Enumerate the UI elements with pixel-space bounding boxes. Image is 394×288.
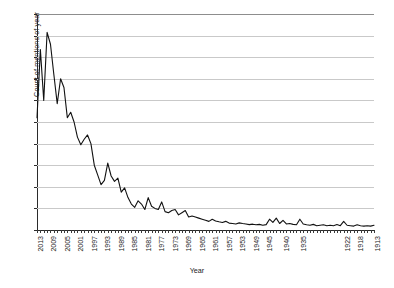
x-axis-tick-mark <box>50 230 51 233</box>
x-axis-tick-mark <box>195 230 196 233</box>
chart-container: Count of mentions of year Year 010020030… <box>0 0 394 288</box>
x-axis-tick-mark <box>71 230 72 233</box>
x-axis-tick-mark <box>94 230 95 233</box>
x-axis-tick-mark <box>131 230 132 233</box>
x-axis-tick-mark <box>145 230 146 233</box>
x-axis-tick-label: 1977 <box>158 236 165 252</box>
x-axis-tick-mark <box>303 230 304 233</box>
x-axis-tick-mark <box>259 230 260 233</box>
x-axis-tick-mark <box>88 230 89 233</box>
x-axis-tick-label: 2009 <box>50 236 57 252</box>
x-axis-tick-mark <box>179 230 180 233</box>
x-axis-tick-mark <box>246 230 247 233</box>
x-axis-tick-label: 1981 <box>144 236 151 252</box>
x-axis-tick-mark <box>172 230 173 233</box>
x-axis-tick-mark <box>115 230 116 233</box>
x-axis-tick-mark <box>47 230 48 233</box>
x-axis-tick-mark <box>249 230 250 233</box>
x-axis-tick-mark <box>175 230 176 233</box>
x-axis-tick-mark <box>98 230 99 233</box>
x-axis-tick-mark <box>125 230 126 233</box>
x-axis-tick-mark <box>307 230 308 233</box>
x-axis-tick-mark <box>111 230 112 233</box>
x-axis-tick-mark <box>367 230 368 233</box>
x-axis-tick-mark <box>296 230 297 233</box>
x-axis-tick-mark <box>61 230 62 233</box>
x-axis-tick-mark <box>135 230 136 233</box>
x-axis-tick-label: 1918 <box>357 236 364 252</box>
x-axis-tick-mark <box>239 230 240 233</box>
x-axis-tick-mark <box>350 230 351 233</box>
x-axis-tick-mark <box>313 230 314 233</box>
x-axis-tick-mark <box>371 230 372 233</box>
x-axis-tick-label: 2001 <box>77 236 84 252</box>
x-axis-tick-mark <box>206 230 207 233</box>
x-axis-tick-mark <box>364 230 365 233</box>
x-axis-tick-label: 1935 <box>299 236 306 252</box>
x-axis-tick-mark <box>44 230 45 233</box>
x-axis-tick-mark <box>256 230 257 233</box>
x-axis-tick-mark <box>37 230 38 233</box>
x-axis-tick-label: 1985 <box>131 236 138 252</box>
x-axis-tick-mark <box>243 230 244 233</box>
x-axis-tick-mark <box>67 230 68 233</box>
x-axis-tick-mark <box>354 230 355 233</box>
x-axis-tick-mark <box>226 230 227 233</box>
x-axis-tick-mark <box>192 230 193 233</box>
x-axis-tick-mark <box>232 230 233 233</box>
x-axis-tick-mark <box>266 230 267 233</box>
x-axis-tick-mark <box>104 230 105 233</box>
x-axis-tick-mark <box>310 230 311 233</box>
x-axis-tick-mark <box>273 230 274 233</box>
x-axis-tick-mark <box>263 230 264 233</box>
x-axis-tick-mark <box>189 230 190 233</box>
x-axis-tick-mark <box>280 230 281 233</box>
x-axis-tick-mark <box>323 230 324 233</box>
x-axis-tick-mark <box>337 230 338 233</box>
x-axis-tick-mark <box>152 230 153 233</box>
x-axis-tick-label: 1961 <box>212 236 219 252</box>
x-axis-tick-mark <box>64 230 65 233</box>
x-axis-tick-mark <box>357 230 358 233</box>
x-axis-tick-mark <box>118 230 119 233</box>
x-axis-tick-mark <box>165 230 166 233</box>
x-axis-tick-mark <box>340 230 341 233</box>
x-axis-tick-label: 1973 <box>171 236 178 252</box>
x-axis-title: Year <box>0 266 394 275</box>
x-axis-tick-mark <box>327 230 328 233</box>
x-axis-tick-mark <box>91 230 92 233</box>
x-axis-tick-label: 1969 <box>185 236 192 252</box>
x-axis-tick-mark <box>84 230 85 233</box>
x-axis-tick-mark <box>320 230 321 233</box>
x-axis-tick-mark <box>347 230 348 233</box>
x-axis-tick-mark <box>290 230 291 233</box>
x-axis-tick-mark <box>54 230 55 233</box>
x-axis-tick-mark <box>162 230 163 233</box>
x-axis-tick-mark <box>317 230 318 233</box>
x-axis-tick-mark <box>219 230 220 233</box>
x-axis-tick-label: 1965 <box>198 236 205 252</box>
x-axis-tick-mark <box>374 230 375 233</box>
plot-area: 01002003004005006007008009001,000 201320… <box>37 14 374 230</box>
x-axis-tick-mark <box>222 230 223 233</box>
x-axis-tick-mark <box>81 230 82 233</box>
x-axis-tick-label: 1993 <box>104 236 111 252</box>
x-axis-tick-mark <box>300 230 301 233</box>
x-axis-tick-mark <box>101 230 102 233</box>
x-axis-tick-mark <box>209 230 210 233</box>
x-axis-tick-mark <box>229 230 230 233</box>
x-axis-tick-mark <box>121 230 122 233</box>
x-axis-tick-label: 1940 <box>283 236 290 252</box>
x-axis-tick-mark <box>270 230 271 233</box>
x-axis-tick-label: 1997 <box>90 236 97 252</box>
x-axis-tick-label: 2005 <box>63 236 70 252</box>
x-axis-tick-mark <box>141 230 142 233</box>
x-axis-tick-mark <box>158 230 159 233</box>
x-axis-tick-label: 2013 <box>37 236 44 252</box>
x-axis-tick-mark <box>361 230 362 233</box>
x-axis-tick-mark <box>202 230 203 233</box>
x-axis-tick-mark <box>168 230 169 233</box>
x-axis-tick-mark <box>344 230 345 233</box>
x-axis-tick-mark <box>77 230 78 233</box>
x-axis-tick-mark <box>293 230 294 233</box>
